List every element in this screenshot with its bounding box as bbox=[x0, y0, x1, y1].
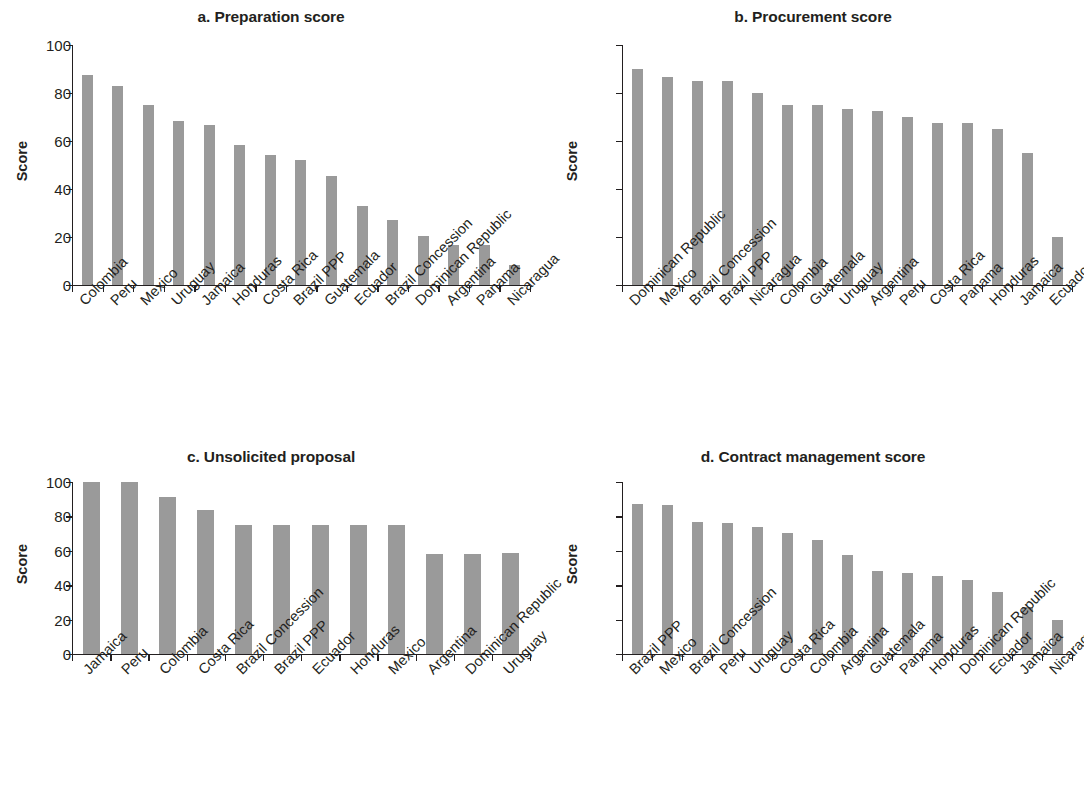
y-tick-label: 20 bbox=[54, 229, 71, 246]
bar-cell bbox=[1012, 482, 1042, 654]
x-tick-mark bbox=[72, 655, 73, 661]
bar-cell bbox=[225, 45, 256, 285]
bar-cell bbox=[922, 482, 952, 654]
bar bbox=[173, 121, 184, 285]
panel-b-title: b. Procurement score bbox=[542, 0, 1084, 26]
bar bbox=[932, 123, 943, 285]
panel-b: b. Procurement score Score020406080100Do… bbox=[542, 0, 1084, 440]
y-axis-label: Score bbox=[564, 544, 580, 584]
bar bbox=[426, 554, 443, 654]
y-tick-label: 80 bbox=[54, 85, 71, 102]
bar-cell bbox=[802, 45, 832, 285]
panel-c-title: c. Unsolicited proposal bbox=[0, 440, 542, 466]
panel-d-title: d. Contract management score bbox=[542, 440, 1084, 466]
y-tick-label: 0 bbox=[63, 277, 71, 294]
bar-cell bbox=[72, 482, 110, 654]
y-axis-label: Score bbox=[14, 544, 30, 584]
panel-a-title: a. Preparation score bbox=[0, 0, 542, 26]
bar-cell bbox=[415, 482, 453, 654]
bar bbox=[121, 482, 138, 654]
bar-cell bbox=[682, 482, 712, 654]
bar-cell bbox=[772, 482, 802, 654]
y-tick-label: 40 bbox=[54, 181, 71, 198]
bar bbox=[82, 75, 93, 285]
bar-cell bbox=[1042, 45, 1072, 285]
bar bbox=[159, 497, 176, 654]
bar bbox=[692, 522, 703, 654]
bar bbox=[692, 81, 703, 285]
bar-cell bbox=[316, 45, 347, 285]
y-tick-label: 80 bbox=[54, 508, 71, 525]
y-tick-label: 20 bbox=[54, 611, 71, 628]
x-tick-mark bbox=[622, 655, 623, 661]
bar-cell bbox=[622, 45, 652, 285]
y-tick-label: 100 bbox=[46, 37, 71, 54]
bar-cell bbox=[377, 45, 408, 285]
bar-cell bbox=[922, 45, 952, 285]
bar-cell bbox=[164, 45, 195, 285]
y-axis-label: Score bbox=[14, 141, 30, 181]
bar-cell bbox=[742, 482, 772, 654]
y-axis-label: Score bbox=[564, 141, 580, 181]
bar-cell bbox=[255, 45, 286, 285]
bar-cell bbox=[862, 45, 892, 285]
bar-cell bbox=[133, 45, 164, 285]
bar-cell bbox=[892, 45, 922, 285]
panel-d: d. Contract management score Score020406… bbox=[542, 440, 1084, 794]
y-tick-label: 40 bbox=[54, 577, 71, 594]
y-tick-label: 60 bbox=[54, 133, 71, 150]
bar-cell bbox=[148, 482, 186, 654]
bar-cell bbox=[1042, 482, 1072, 654]
bar-cell bbox=[772, 45, 802, 285]
x-tick-mark bbox=[72, 286, 73, 292]
bar bbox=[632, 69, 643, 285]
bar-cell bbox=[499, 45, 530, 285]
panel-c: c. Unsolicited proposal Score02040608010… bbox=[0, 440, 542, 794]
panel-a: a. Preparation score Score020406080100Co… bbox=[0, 0, 542, 440]
bar-cell bbox=[103, 45, 134, 285]
bar-cell bbox=[72, 45, 103, 285]
x-tick-mark bbox=[622, 286, 623, 292]
y-tick-label: 60 bbox=[54, 542, 71, 559]
bar bbox=[83, 482, 100, 654]
bar-cell bbox=[194, 45, 225, 285]
bar-cell bbox=[622, 482, 652, 654]
y-tick-label: 0 bbox=[63, 646, 71, 663]
bar-cell bbox=[339, 482, 377, 654]
bar-cell bbox=[982, 45, 1012, 285]
bar-cell bbox=[1012, 45, 1042, 285]
figure-grid: a. Preparation score Score020406080100Co… bbox=[0, 0, 1084, 794]
bar bbox=[143, 105, 154, 285]
bar bbox=[632, 504, 643, 655]
y-tick-label: 100 bbox=[46, 474, 71, 491]
